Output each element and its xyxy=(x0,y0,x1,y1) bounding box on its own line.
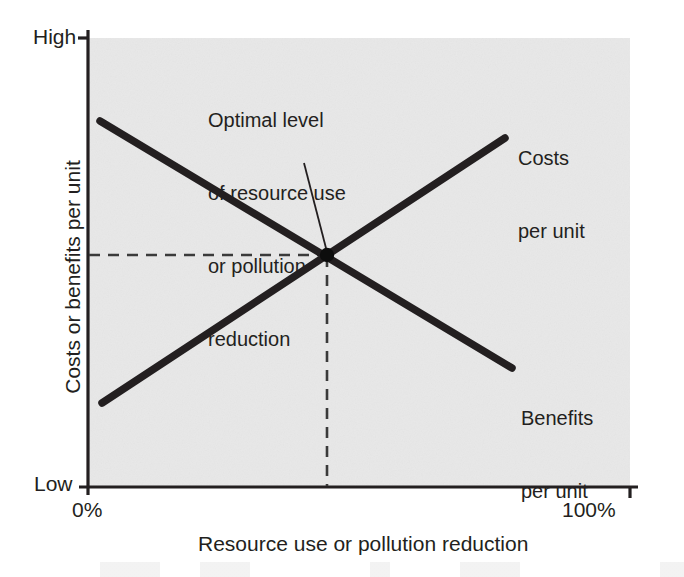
y-axis-high-tick-label: High xyxy=(33,24,76,49)
benefits-label-line-1: Benefits xyxy=(521,406,593,430)
cost-benefit-chart-figure: High Low 0% 100% Resource use or polluti… xyxy=(0,0,684,577)
annotation-line-3: or pollution xyxy=(208,254,346,278)
annotation-line-1: Optimal level xyxy=(208,108,346,132)
annotation-line-2: of resource use xyxy=(208,181,346,205)
benefits-per-unit-label: Benefits per unit xyxy=(521,357,593,552)
costs-per-unit-label: Costs per unit xyxy=(518,97,585,292)
scan-edge-artifact xyxy=(0,562,684,577)
y-axis-low-tick-label: Low xyxy=(34,471,73,496)
y-axis-title-wrapper: Costs or benefits per unit xyxy=(60,117,90,437)
annotation-line-4: reduction xyxy=(208,327,346,351)
optimal-point-annotation: Optimal level of resource use or polluti… xyxy=(208,59,346,400)
x-axis-title: Resource use or pollution reduction xyxy=(198,531,528,556)
costs-label-line-2: per unit xyxy=(518,219,585,243)
y-axis-title: Costs or benefits per unit xyxy=(60,117,85,437)
costs-label-line-1: Costs xyxy=(518,146,585,170)
benefits-label-line-2: per unit xyxy=(521,479,593,503)
x-axis-min-tick-label: 0% xyxy=(72,497,102,522)
